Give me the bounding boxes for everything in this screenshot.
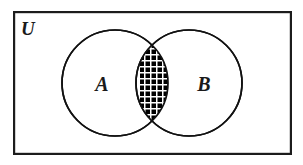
diagram-canvas: U A B — [0, 0, 303, 165]
set-b-label: B — [196, 73, 210, 95]
set-a-label: A — [93, 73, 108, 95]
venn-diagram-figure: U A B — [0, 0, 303, 165]
universal-set-label: U — [21, 18, 36, 39]
